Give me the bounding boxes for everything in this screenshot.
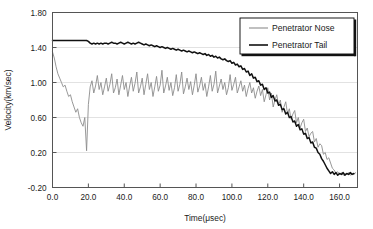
y-axis-tick-labels: 1.801.401.000.600.20-0.20 bbox=[28, 9, 47, 193]
velocity-time-chart: 0.020.040.060.080.0100.0120.0140.0160.0 … bbox=[0, 0, 373, 229]
legend: Penetrator Nose Penetrator Tail bbox=[240, 18, 356, 56]
series-line-penetrator-tail bbox=[53, 41, 354, 176]
x-tick-label: 120.0 bbox=[258, 193, 279, 202]
legend-label-penetrator-tail: Penetrator Tail bbox=[272, 40, 327, 50]
series-layer bbox=[53, 41, 356, 176]
legend-shadow-right bbox=[354, 20, 356, 57]
x-tick-label: 20.0 bbox=[80, 193, 96, 202]
x-tick-label: 80.0 bbox=[188, 193, 204, 202]
x-tick-label: 40.0 bbox=[116, 193, 132, 202]
y-tick-label: 0.60 bbox=[31, 114, 47, 123]
y-tick-label: 1.40 bbox=[31, 44, 47, 53]
legend-label-penetrator-nose: Penetrator Nose bbox=[272, 23, 335, 33]
y-tick-label: 0.20 bbox=[31, 149, 47, 158]
x-axis-tick-labels: 0.020.040.060.080.0100.0120.0140.0160.0 bbox=[47, 193, 350, 202]
x-axis-ticks bbox=[53, 184, 340, 188]
y-tick-label: -0.20 bbox=[28, 184, 47, 193]
x-axis-title: Time(μsec) bbox=[184, 213, 226, 223]
chart-canvas: 0.020.040.060.080.0100.0120.0140.0160.0 … bbox=[0, 0, 373, 229]
gridlines bbox=[53, 48, 358, 153]
x-tick-label: 160.0 bbox=[329, 193, 350, 202]
legend-shadow-bottom bbox=[242, 54, 356, 56]
y-axis-ticks bbox=[53, 13, 57, 188]
x-tick-label: 0.0 bbox=[47, 193, 59, 202]
series-line-penetrator-nose bbox=[53, 52, 356, 175]
y-tick-label: 1.80 bbox=[31, 9, 47, 18]
x-tick-label: 140.0 bbox=[293, 193, 314, 202]
y-tick-label: 1.00 bbox=[31, 79, 47, 88]
y-axis-title: Velocity(km/sec) bbox=[3, 69, 13, 130]
x-tick-label: 100.0 bbox=[222, 193, 243, 202]
x-tick-label: 60.0 bbox=[152, 193, 168, 202]
